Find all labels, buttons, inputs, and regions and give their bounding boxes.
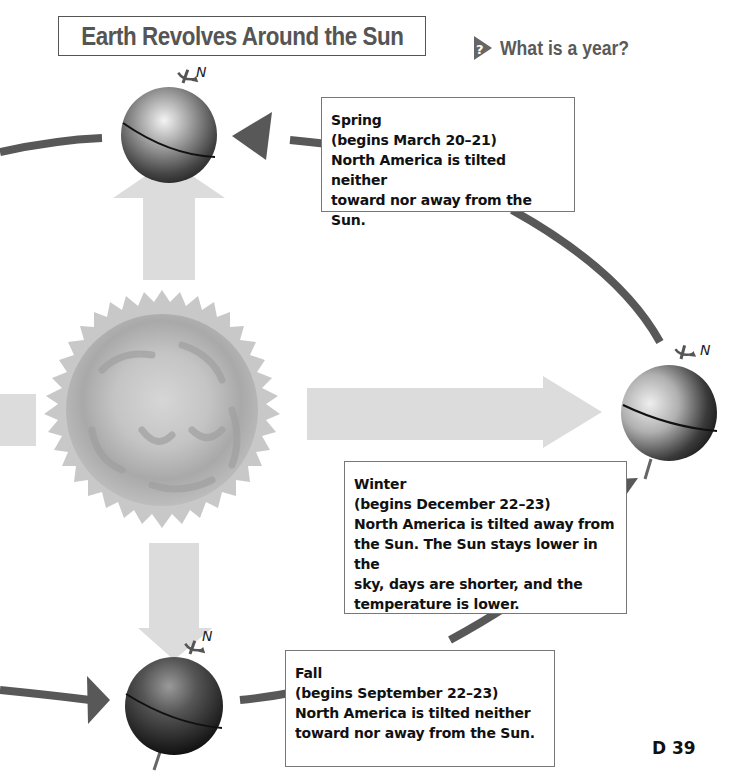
season-description-line: sky, days are shorter, and the bbox=[354, 574, 618, 594]
page-number: D 39 bbox=[652, 738, 696, 758]
question-arrow-icon: ? bbox=[472, 34, 494, 62]
season-dates: (begins December 22–23) bbox=[354, 494, 618, 514]
page-title: Earth Revolves Around the Sun bbox=[81, 21, 403, 52]
sun bbox=[44, 290, 280, 528]
earth-winter bbox=[621, 343, 717, 479]
season-description-line: the Sun. The Sun stays lower in the bbox=[354, 534, 618, 574]
season-title: Fall bbox=[295, 663, 546, 683]
season-description-line: toward nor away from the Sun. bbox=[295, 723, 546, 743]
title-box: Earth Revolves Around the Sun bbox=[58, 16, 426, 56]
north-label-fall: N bbox=[202, 628, 212, 644]
season-description-line: North America is tilted away from bbox=[354, 514, 618, 534]
season-description-line: toward nor away from the Sun. bbox=[331, 190, 566, 230]
info-box-winter: Winter (begins December 22–23) North Ame… bbox=[344, 461, 627, 614]
orbit-arrowhead-spring bbox=[232, 112, 272, 160]
question-text: What is a year? bbox=[500, 37, 629, 60]
north-label-spring: N bbox=[196, 64, 206, 80]
svg-text:?: ? bbox=[476, 42, 484, 57]
question-prompt: ? What is a year? bbox=[472, 34, 647, 62]
season-title: Spring bbox=[331, 110, 566, 130]
north-label-winter: N bbox=[700, 342, 710, 358]
orbit-arrowhead-fall bbox=[87, 676, 110, 724]
season-dates: (begins September 22–23) bbox=[295, 683, 546, 703]
season-dates: (begins March 20–21) bbox=[331, 130, 566, 150]
season-description-line: temperature is lower. bbox=[354, 594, 618, 614]
info-box-fall: Fall (begins September 22–23) North Amer… bbox=[285, 650, 555, 767]
earth-spring bbox=[121, 67, 217, 183]
earth-fall bbox=[125, 638, 223, 770]
season-title: Winter bbox=[354, 474, 618, 494]
info-box-spring: Spring (begins March 20–21) North Americ… bbox=[321, 97, 575, 212]
season-description-line: North America is tilted neither bbox=[331, 150, 566, 190]
season-description-line: North America is tilted neither bbox=[295, 703, 546, 723]
